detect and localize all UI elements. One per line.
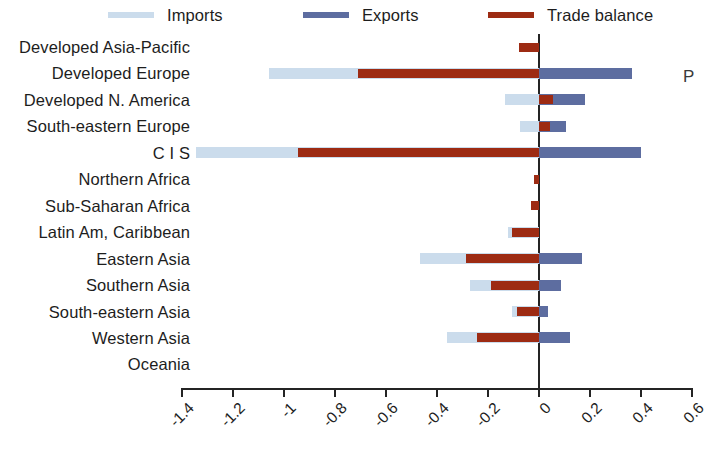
axis-tick-label: -0.2 xyxy=(472,399,504,431)
bar-balance xyxy=(539,122,550,131)
axis-tick xyxy=(385,388,387,397)
legend-swatch-exports xyxy=(303,12,349,18)
bar-balance xyxy=(466,254,539,263)
axis-tick-label: 0.4 xyxy=(629,399,657,427)
bar-exports xyxy=(539,147,641,158)
axis-tick xyxy=(232,388,234,397)
axis-tick-label: -1.4 xyxy=(166,399,198,431)
axis-tick xyxy=(436,388,438,397)
bar-balance xyxy=(298,148,539,157)
axis-tick-label: 0 xyxy=(536,399,555,418)
bars-layer xyxy=(0,32,694,392)
legend-label-imports: Imports xyxy=(167,6,223,25)
bar-exports xyxy=(539,68,632,79)
chart-legend: Imports Exports Trade balance xyxy=(0,0,694,32)
bar-balance xyxy=(531,201,539,210)
bar-exports xyxy=(539,253,582,264)
legend-label-exports: Exports xyxy=(362,6,419,25)
legend-item-exports[interactable]: Exports xyxy=(303,2,419,28)
axis-tick xyxy=(334,388,336,397)
plot-area: Developed Asia-PacificDeveloped EuropeDe… xyxy=(0,32,694,392)
bar-exports xyxy=(539,306,548,317)
axis-tick xyxy=(691,388,693,397)
bar-balance xyxy=(519,43,539,52)
axis-tick-label: -0.8 xyxy=(319,399,351,431)
bar-balance xyxy=(491,281,539,290)
axis-tick-label: 0.2 xyxy=(578,399,606,427)
legend-item-imports[interactable]: Imports xyxy=(108,2,223,28)
bar-balance xyxy=(358,69,539,78)
bar-exports xyxy=(539,332,570,343)
axis-tick xyxy=(589,388,591,397)
axis-tick-label: -0.4 xyxy=(421,399,453,431)
bar-imports xyxy=(505,94,539,105)
axis-tick-label: -0.6 xyxy=(370,399,402,431)
axis-tick xyxy=(181,388,183,397)
bar-balance xyxy=(539,95,553,104)
bar-balance xyxy=(512,228,539,237)
legend-label-trade-balance: Trade balance xyxy=(547,6,653,25)
axis-tick xyxy=(487,388,489,397)
axis-tick-label: -1 xyxy=(277,399,299,421)
axis-tick-label: 0.6 xyxy=(680,399,708,427)
value-axis: -1.4-1.2-1-0.8-0.6-0.4-0.200.20.40.6 xyxy=(0,388,694,451)
bar-imports xyxy=(520,121,539,132)
legend-item-trade-balance[interactable]: Trade balance xyxy=(488,2,653,28)
bar-balance xyxy=(534,175,539,184)
bar-balance xyxy=(477,333,539,342)
cropped-edge-glyph: P xyxy=(683,66,694,88)
axis-tick-label: -1.2 xyxy=(217,399,249,431)
bar-balance xyxy=(517,307,539,316)
axis-tick xyxy=(538,388,540,397)
bar-exports xyxy=(539,280,561,291)
legend-swatch-trade-balance xyxy=(488,12,534,18)
legend-swatch-imports xyxy=(108,12,154,18)
axis-tick xyxy=(283,388,285,397)
axis-tick xyxy=(640,388,642,397)
